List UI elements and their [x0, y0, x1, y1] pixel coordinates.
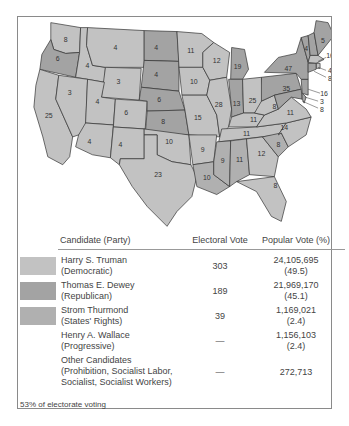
svg-text:14: 14 [280, 124, 288, 131]
state-ct [308, 63, 316, 72]
electoral-cell: 303 [185, 261, 255, 271]
svg-text:16: 16 [326, 52, 331, 59]
svg-text:8: 8 [320, 106, 324, 113]
header-electoral: Electoral Vote [185, 235, 255, 245]
state-wy [101, 67, 141, 100]
svg-text:4: 4 [154, 44, 158, 51]
svg-text:25: 25 [45, 112, 53, 119]
candidate-cell: Other Candidates (Prohibition, Socialist… [61, 355, 173, 388]
svg-text:4: 4 [328, 67, 331, 74]
legend-swatch-democratic [20, 257, 56, 275]
svg-text:8: 8 [273, 182, 277, 189]
header-divider [58, 249, 345, 250]
svg-text:6: 6 [56, 55, 60, 62]
svg-text:11: 11 [250, 116, 257, 123]
candidate-cell: Thomas E. Dewey (Republican) [61, 280, 135, 302]
electoral-cell: — [185, 336, 255, 346]
svg-text:3: 3 [116, 78, 120, 85]
state-sd [141, 60, 179, 91]
popular-cell: 1,156,103 (2.4) [261, 330, 331, 352]
svg-text:23: 23 [154, 171, 162, 178]
footnote: 53% of electorate voting [20, 400, 106, 409]
popular-cell: 1,169,021 (2.4) [261, 305, 331, 327]
svg-text:3: 3 [68, 89, 72, 96]
svg-text:10: 10 [190, 78, 198, 85]
svg-text:6: 6 [157, 96, 161, 103]
candidate-cell: Harry S. Truman (Democratic) [61, 255, 127, 277]
svg-text:12: 12 [258, 150, 266, 157]
svg-text:6: 6 [124, 109, 128, 116]
electoral-cell: 189 [185, 286, 255, 296]
table-header: Candidate (Party) Electoral Vote Popular… [18, 235, 331, 249]
svg-text:13: 13 [233, 100, 241, 107]
svg-text:4: 4 [154, 71, 158, 78]
candidate-cell: Strom Thurmond (States' Rights) [61, 305, 128, 327]
svg-text:8: 8 [64, 36, 68, 43]
svg-text:4: 4 [86, 62, 90, 69]
popular-cell: 21,969,170 (45.1) [261, 280, 331, 302]
svg-text:5: 5 [321, 38, 325, 45]
legend-swatch-republican [20, 282, 56, 300]
svg-text:10: 10 [203, 174, 211, 181]
svg-text:16: 16 [320, 90, 328, 97]
svg-text:11: 11 [187, 47, 194, 54]
header-popular: Popular Vote (%) [261, 235, 331, 245]
svg-text:9: 9 [221, 157, 225, 164]
electoral-cell: — [185, 367, 255, 377]
svg-text:25: 25 [249, 97, 257, 104]
header-candidate: Candidate (Party) [60, 235, 131, 245]
state-fl [237, 177, 287, 222]
svg-text:4: 4 [304, 45, 308, 52]
svg-text:35: 35 [282, 85, 290, 92]
electoral-cell: 39 [185, 311, 255, 321]
svg-text:9: 9 [201, 146, 205, 153]
svg-text:10: 10 [165, 138, 173, 145]
svg-text:8: 8 [161, 118, 165, 125]
svg-text:11: 11 [287, 109, 294, 116]
svg-text:3: 3 [320, 98, 324, 105]
state-co [113, 99, 147, 129]
svg-text:8: 8 [272, 103, 276, 110]
us-electoral-map: 8 6 25 4 3 4 3 4 6 4 4 4 4 6 8 10 23 11 … [18, 17, 331, 227]
popular-cell: 24,105,695 (49.5) [261, 255, 331, 277]
svg-text:12: 12 [213, 57, 221, 64]
svg-text:4: 4 [96, 98, 100, 105]
svg-text:4: 4 [113, 44, 117, 51]
svg-text:11: 11 [243, 130, 250, 137]
svg-text:8: 8 [276, 141, 280, 148]
state-nd [144, 31, 179, 62]
svg-text:19: 19 [234, 63, 242, 70]
svg-text:28: 28 [215, 101, 223, 108]
svg-text:8: 8 [328, 75, 331, 82]
svg-text:4: 4 [118, 141, 122, 148]
popular-cell: 272,713 [261, 367, 331, 378]
candidate-cell: Henry A. Wallace (Progressive) [61, 330, 130, 352]
svg-text:11: 11 [236, 156, 243, 163]
figure-frame: 8 6 25 4 3 4 3 4 6 4 4 4 4 6 8 10 23 11 … [17, 16, 332, 409]
svg-text:47: 47 [284, 65, 292, 72]
svg-text:15: 15 [194, 114, 202, 121]
svg-text:4: 4 [88, 138, 92, 145]
state-nj [301, 79, 308, 95]
legend-swatch-states-rights [20, 307, 56, 325]
state-ny [264, 38, 308, 80]
